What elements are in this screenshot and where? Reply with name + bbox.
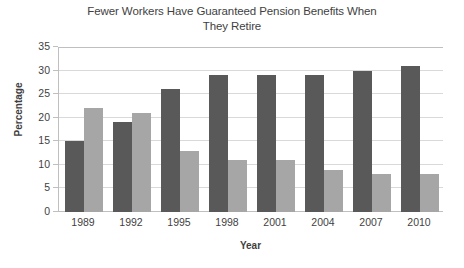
- bar-1989-series-1: [65, 141, 84, 212]
- x-axis-tick-label-2007: 2007: [347, 216, 395, 228]
- y-axis-tick-label-text: 0: [4, 206, 50, 216]
- x-axis-tick-label-1995: 1995: [155, 216, 203, 228]
- bar-1992-series-1: [113, 122, 132, 212]
- y-axis-tick-label: 5: [0, 182, 50, 192]
- y-axis-tick-label-text: 15: [4, 135, 50, 145]
- y-axis-tick-label: 20: [0, 112, 50, 122]
- y-axis-tick-label: 25: [0, 88, 50, 98]
- bars-layer: [59, 47, 443, 212]
- chart-title-line-1: Fewer Workers Have Guaranteed Pension Be…: [0, 4, 464, 19]
- y-axis-tick-label-text: 20: [4, 112, 50, 122]
- bar-2004-series-1: [305, 75, 324, 212]
- y-axis-tick-label: 15: [0, 135, 50, 145]
- bar-1998-series-2: [228, 160, 247, 212]
- x-axis-tick-label-2010: 2010: [395, 216, 443, 228]
- y-axis-tick-label-text: 25: [4, 88, 50, 98]
- chart-title: Fewer Workers Have Guaranteed Pension Be…: [0, 4, 464, 34]
- bar-group: [347, 47, 395, 212]
- y-axis-tick-label: 35: [0, 41, 50, 51]
- bar-2004-series-2: [324, 170, 343, 212]
- x-axis-tick-labels: 19891992199519982001200420072010: [59, 216, 443, 230]
- bar-group: [299, 47, 347, 212]
- y-axis-tick-label-text: 30: [4, 65, 50, 75]
- bar-2010-series-1: [401, 66, 420, 212]
- x-axis-tick-label-2004: 2004: [299, 216, 347, 228]
- bar-group: [203, 47, 251, 212]
- bar-2007-series-2: [372, 174, 391, 212]
- bar-2001-series-2: [276, 160, 295, 212]
- bar-1995-series-1: [161, 89, 180, 212]
- y-axis-tick-label-text: 10: [4, 159, 50, 169]
- x-axis-tick-label-1998: 1998: [203, 216, 251, 228]
- y-axis-tick-label-text: 35: [4, 41, 50, 51]
- bar-1989-series-2: [84, 108, 103, 212]
- y-axis-tick-label-text: 5: [4, 182, 50, 192]
- x-axis-title: Year: [58, 240, 443, 251]
- y-axis-tick-label: 10: [0, 159, 50, 169]
- bar-group: [155, 47, 203, 212]
- x-axis-tick-label-2001: 2001: [251, 216, 299, 228]
- y-axis-tick-label: 0: [0, 206, 50, 216]
- x-axis-tick-label-1992: 1992: [107, 216, 155, 228]
- bar-group: [107, 47, 155, 212]
- bar-1995-series-2: [180, 151, 199, 212]
- bar-group: [395, 47, 443, 212]
- x-axis-tick-label-1989: 1989: [59, 216, 107, 228]
- bar-group: [59, 47, 107, 212]
- pension-benefits-bar-chart: Fewer Workers Have Guaranteed Pension Be…: [0, 0, 464, 268]
- bar-1998-series-1: [209, 75, 228, 212]
- bar-2007-series-1: [353, 71, 372, 212]
- bar-2001-series-1: [257, 75, 276, 212]
- bar-1992-series-2: [132, 113, 151, 212]
- chart-title-line-2: They Retire: [0, 19, 464, 34]
- bar-2010-series-2: [420, 174, 439, 212]
- bar-group: [251, 47, 299, 212]
- y-axis-tick-label: 30: [0, 65, 50, 75]
